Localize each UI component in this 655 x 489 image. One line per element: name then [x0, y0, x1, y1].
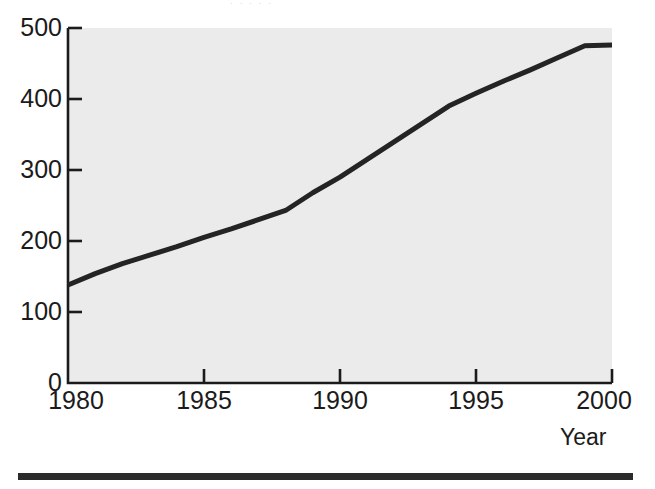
y-axis-tick-label: 300 — [4, 157, 62, 182]
x-axis-tick-label: 1990 — [312, 386, 368, 414]
line-chart — [0, 0, 655, 400]
x-axis-title: Year — [560, 424, 606, 450]
y-axis-tick-label: 200 — [4, 228, 62, 253]
x-axis-tick-label: 1985 — [176, 386, 232, 414]
figure-container: · · · · · 0100200300400500 1980198519901… — [0, 0, 655, 489]
x-axis-tick-label: 1995 — [448, 386, 504, 414]
y-axis-tick-labels: 0100200300400500 — [0, 0, 62, 400]
x-axis-tick-labels: 19801985199019952000 — [0, 386, 655, 426]
bottom-divider-rule — [18, 473, 633, 480]
y-axis-tick-label: 500 — [4, 15, 62, 40]
plot-area: 0100200300400500 — [0, 0, 655, 400]
y-axis-tick-label: 100 — [4, 299, 62, 324]
x-axis-tick-label: 2000 — [576, 386, 632, 414]
x-axis-tick-label: 1980 — [48, 386, 104, 414]
plot-background — [68, 28, 612, 383]
y-axis-tick-label: 400 — [4, 86, 62, 111]
